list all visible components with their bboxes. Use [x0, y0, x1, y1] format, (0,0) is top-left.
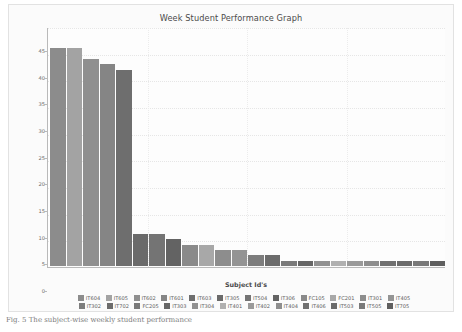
legend-label: IT401: [228, 303, 242, 309]
legend-item[interactable]: IT404: [276, 303, 298, 309]
bar: [67, 48, 83, 266]
bar: [182, 245, 198, 266]
y-axis-tick-mark: [44, 264, 47, 265]
bar: [199, 245, 215, 266]
bar: [397, 261, 413, 266]
legend-swatch-icon: [387, 303, 393, 309]
y-axis-tick-mark: [44, 51, 47, 52]
bar: [331, 261, 347, 266]
bar: [133, 234, 149, 266]
y-axis-tick-mark: [44, 211, 47, 212]
figure-page: Week Student Performance Graph Number of…: [0, 0, 462, 332]
legend-label: IT504: [253, 295, 267, 301]
legend-swatch-icon: [192, 303, 198, 309]
legend-label: IT605: [114, 295, 128, 301]
legend-swatch-icon: [134, 303, 140, 309]
legend-swatch-icon: [388, 295, 394, 301]
legend-item[interactable]: IT305: [217, 295, 239, 301]
y-axis-tick-mark: [44, 291, 47, 292]
bar: [298, 261, 314, 266]
bar: [248, 255, 264, 266]
bar: [380, 261, 396, 266]
legend-label: FC205: [142, 303, 158, 309]
legend-swatch-icon: [164, 303, 170, 309]
legend-label: IT404: [284, 303, 298, 309]
bar: [116, 70, 132, 267]
legend-swatch-icon: [245, 295, 251, 301]
legend-swatch-icon: [78, 295, 84, 301]
bar: [413, 261, 429, 266]
legend-item[interactable]: IT306: [273, 295, 295, 301]
bar: [232, 250, 248, 266]
legend-swatch-icon: [360, 295, 366, 301]
legend-label: IT602: [142, 295, 156, 301]
y-axis-tick-mark: [44, 238, 47, 239]
legend-row-2: IT302IT702FC205IT303IT304IT401IT402IT404…: [59, 303, 429, 309]
legend-swatch-icon: [301, 295, 307, 301]
legend-item[interactable]: IT702: [107, 303, 129, 309]
legend-swatch-icon: [276, 303, 282, 309]
legend-item[interactable]: IT401: [220, 303, 242, 309]
legend-item[interactable]: IT304: [192, 303, 214, 309]
legend-item[interactable]: IT405: [388, 295, 410, 301]
legend-swatch-icon: [359, 303, 365, 309]
legend-label: IT303: [172, 303, 186, 309]
legend-item[interactable]: IT603: [189, 295, 211, 301]
legend-label: IT601: [169, 295, 183, 301]
legend-swatch-icon: [303, 303, 309, 309]
legend-swatch-icon: [220, 303, 226, 309]
legend-item[interactable]: FC105: [301, 295, 325, 301]
y-axis-tick-mark: [44, 131, 47, 132]
legend-item[interactable]: IT705: [387, 303, 409, 309]
bar: [166, 239, 182, 266]
legend-swatch-icon: [331, 303, 337, 309]
bar: [215, 250, 231, 266]
bar: [314, 261, 330, 266]
bar: [265, 255, 281, 266]
legend-row-1: IT604IT605IT602IT601IT603IT305IT504IT306…: [59, 295, 429, 301]
legend-item[interactable]: IT605: [106, 295, 128, 301]
chart-card: Week Student Performance Graph Number of…: [8, 4, 454, 312]
legend-item[interactable]: IT303: [164, 303, 186, 309]
legend-label: IT405: [396, 295, 410, 301]
legend-swatch-icon: [106, 295, 112, 301]
legend-label: IT304: [200, 303, 214, 309]
legend-label: IT406: [311, 303, 325, 309]
legend-item[interactable]: IT601: [161, 295, 183, 301]
figure-caption: Fig. 5 The subject-wise weekly student p…: [6, 316, 306, 330]
y-axis-tick-mark: [44, 104, 47, 105]
legend-item[interactable]: IT301: [360, 295, 382, 301]
legend-swatch-icon: [189, 295, 195, 301]
legend-item[interactable]: IT406: [303, 303, 325, 309]
plot-wrapper: Number of Student's 051015202530354045: [47, 28, 445, 277]
bar: [347, 261, 363, 266]
legend-label: IT604: [86, 295, 100, 301]
legend-item[interactable]: IT604: [78, 295, 100, 301]
bar-series: [49, 27, 445, 266]
legend-label: IT305: [225, 295, 239, 301]
legend-swatch-icon: [273, 295, 279, 301]
legend-item[interactable]: IT505: [359, 303, 381, 309]
chart-title: Week Student Performance Graph: [9, 13, 453, 23]
legend-item[interactable]: IT302: [79, 303, 101, 309]
legend-item[interactable]: FC205: [134, 303, 158, 309]
legend-swatch-icon: [134, 295, 140, 301]
bar: [100, 64, 116, 266]
legend-item[interactable]: IT503: [331, 303, 353, 309]
legend-item[interactable]: IT504: [245, 295, 267, 301]
bar: [364, 261, 380, 266]
legend-swatch-icon: [161, 295, 167, 301]
legend-swatch-icon: [217, 295, 223, 301]
legend-item[interactable]: IT602: [134, 295, 156, 301]
bar: [149, 234, 165, 266]
legend-label: FC201: [338, 295, 354, 301]
legend-label: IT705: [395, 303, 409, 309]
legend-label: IT503: [339, 303, 353, 309]
y-axis-tick-mark: [44, 184, 47, 185]
legend-swatch-icon: [330, 295, 336, 301]
legend-label: IT302: [87, 303, 101, 309]
legend-item[interactable]: IT402: [248, 303, 270, 309]
legend-label: IT505: [367, 303, 381, 309]
x-axis-title: Subject Id's: [47, 281, 445, 289]
legend-item[interactable]: FC201: [330, 295, 354, 301]
